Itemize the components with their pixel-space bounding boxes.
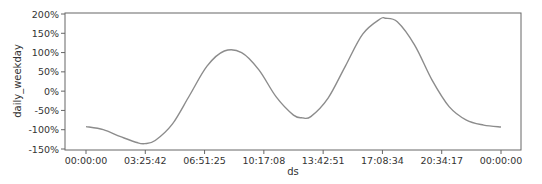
y-tick-label: -100%: [28, 124, 59, 135]
x-axis: 00:00:0003:25:4206:51:2510:17:0813:42:51…: [65, 150, 523, 166]
x-tick-label: 06:51:25: [183, 155, 226, 166]
x-tick-label: 17:08:34: [361, 155, 404, 166]
y-tick-label: 100%: [32, 47, 59, 58]
y-axis-title: daily_weekday: [12, 44, 24, 118]
y-tick-label: 50%: [38, 66, 59, 77]
x-axis-title: ds: [287, 166, 299, 177]
plot-frame: [65, 13, 521, 150]
y-tick-label: -150%: [28, 144, 59, 155]
y-axis: 200%150%100%50%0%-50%-100%-150%: [28, 9, 65, 155]
y-tick-label: 0%: [44, 86, 59, 97]
x-tick-label: 10:17:08: [243, 155, 286, 166]
y-tick-label: -50%: [34, 105, 59, 116]
x-tick-label: 20:34:17: [420, 155, 463, 166]
x-tick-label: 00:00:00: [480, 155, 523, 166]
x-tick-label: 03:25:42: [124, 155, 167, 166]
x-tick-label: 00:00:00: [65, 155, 108, 166]
x-tick-label: 13:42:51: [302, 155, 345, 166]
y-tick-label: 200%: [32, 9, 59, 20]
line-chart: 200%150%100%50%0%-50%-100%-150% 00:00:00…: [0, 0, 542, 184]
y-tick-label: 150%: [32, 28, 59, 39]
